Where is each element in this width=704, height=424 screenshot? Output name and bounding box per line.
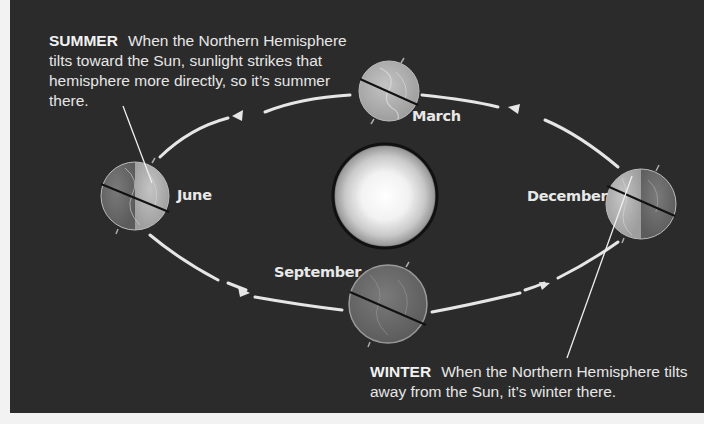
earth-march (359, 58, 419, 124)
earth-june (101, 158, 169, 234)
sun (332, 143, 438, 249)
winter-caption: WINTERWhen the Northern Hemisphere tilts… (370, 362, 700, 402)
arrow-icon (508, 104, 520, 114)
summer-caption: SUMMERWhen the Northern Hemisphere tilts… (49, 31, 349, 111)
label-march: March (412, 108, 461, 124)
arrow-icon (232, 110, 243, 121)
summer-heading: SUMMER (49, 32, 118, 49)
label-december: December (527, 188, 607, 204)
winter-heading: WINTER (370, 363, 431, 380)
label-june: June (177, 187, 212, 203)
arrow-icon (539, 282, 550, 290)
earth-december (606, 165, 676, 243)
label-september: September (274, 264, 361, 280)
